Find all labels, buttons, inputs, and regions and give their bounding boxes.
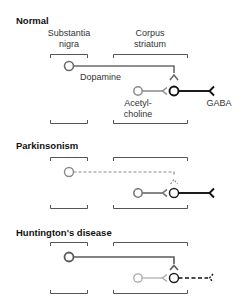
substantia-nigra-bracket-top	[51, 243, 88, 247]
substantia-nigra-label-2: nigra	[59, 39, 79, 49]
corpus-striatum-bracket-top	[114, 243, 188, 247]
corpus-striatum-bracket-top	[114, 158, 188, 162]
gaba-neuron-degenerated	[170, 274, 214, 283]
acetylcholine-terminal-icon	[163, 88, 168, 95]
acetylcholine-label-1: Acetyl-	[124, 98, 152, 108]
substantia-nigra-bracket-bottom	[51, 290, 88, 294]
dopamine-label: Dopamine	[80, 72, 121, 82]
dopamine-terminal-icon	[170, 75, 178, 80]
acetylcholine-cell-body-icon	[134, 274, 142, 282]
substantia-nigra-bracket-top	[51, 158, 88, 162]
gaba-cell-body-icon	[170, 189, 179, 198]
dopamine-cell-body-icon	[65, 62, 74, 71]
panel-title-huntingtons: Huntington's disease	[16, 227, 112, 238]
substantia-nigra-label-1: Substantia	[48, 28, 91, 38]
dopamine-neuron-degenerated	[65, 168, 178, 185]
acetylcholine-terminal-icon	[163, 190, 168, 197]
panel-title-parkinsonism: Parkinsonism	[16, 140, 78, 151]
acetylcholine-neuron	[134, 87, 167, 95]
corpus-striatum-label-2: striatum	[134, 39, 166, 49]
dopamine-terminal-dashed-icon	[171, 180, 178, 185]
dopamine-cell-body-icon	[65, 168, 74, 177]
corpus-striatum-bracket-bottom	[114, 120, 188, 124]
dopamine-cell-body-icon	[65, 253, 74, 262]
substantia-nigra-bracket-bottom	[51, 120, 88, 124]
corpus-striatum-bracket-top	[114, 55, 188, 59]
acetylcholine-label-2: choline	[124, 109, 153, 119]
corpus-striatum-label-1: Corpus	[135, 28, 165, 38]
substantia-nigra-bracket-bottom	[51, 205, 88, 209]
gaba-neuron	[170, 189, 215, 198]
acetylcholine-neuron-reduced	[134, 274, 167, 282]
dopamine-neuron	[65, 253, 179, 271]
panel-normal: Normal Substantia nigra Corpus striatum …	[16, 15, 232, 124]
gaba-terminal-dashed-icon	[210, 274, 214, 282]
gaba-label: GABA	[206, 98, 231, 108]
acetylcholine-neuron	[134, 189, 167, 197]
corpus-striatum-bracket-bottom	[114, 290, 188, 294]
gaba-terminal-icon	[210, 189, 215, 198]
substantia-nigra-bracket-top	[51, 55, 88, 59]
panel-title-normal: Normal	[16, 15, 49, 26]
acetylcholine-cell-body-icon	[134, 189, 142, 197]
acetylcholine-cell-body-icon	[134, 87, 142, 95]
gaba-cell-body-icon	[170, 274, 179, 283]
panel-parkinsonism: Parkinsonism	[16, 140, 214, 209]
acetylcholine-terminal-icon	[163, 275, 168, 282]
dopamine-axon-dashed	[74, 172, 175, 176]
gaba-cell-body-icon	[170, 87, 179, 96]
dopamine-axon	[74, 257, 175, 264]
panel-huntingtons: Huntington's disease	[16, 227, 213, 294]
corpus-striatum-bracket-bottom	[114, 205, 188, 209]
gaba-terminal-icon	[210, 87, 215, 96]
dopamine-terminal-icon	[170, 266, 178, 271]
neurotransmitter-diagram: Normal Substantia nigra Corpus striatum …	[0, 0, 244, 306]
gaba-neuron	[170, 87, 215, 96]
